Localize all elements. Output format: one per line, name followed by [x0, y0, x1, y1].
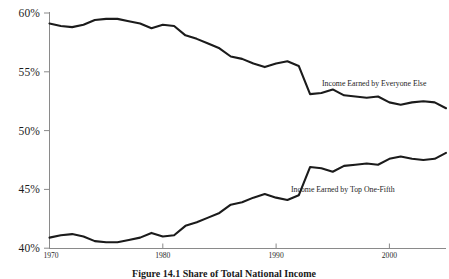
y-axis-label-60: 60%	[19, 7, 41, 19]
series-label-top-one-fifth: Income Earned by Top One-Fifth	[291, 185, 395, 194]
y-axis-label-55: 55%	[19, 66, 41, 78]
x-axis-label-1990: 1990	[269, 251, 284, 260]
y-axis-label-50: 50%	[19, 125, 41, 137]
y-axis-label-45: 45%	[19, 183, 41, 195]
x-axis-label-1980: 1980	[155, 251, 170, 260]
series-line-everyone-else	[50, 19, 447, 108]
series-line-top-one-fifth	[50, 153, 447, 242]
figure-caption: Figure 14.1 Share of Total National Inco…	[132, 268, 316, 279]
line-chart: 60% 55% 50% 45% 40% 1970 1980 1990 2000 …	[0, 0, 449, 279]
x-axis-label-2000: 2000	[382, 251, 397, 260]
series-label-everyone-else: Income Earned by Everyone Else	[322, 79, 427, 88]
x-axis-label-1970: 1970	[43, 251, 58, 260]
figure-container: 60% 55% 50% 45% 40% 1970 1980 1990 2000 …	[0, 0, 449, 279]
y-axis-label-40: 40%	[19, 242, 41, 254]
